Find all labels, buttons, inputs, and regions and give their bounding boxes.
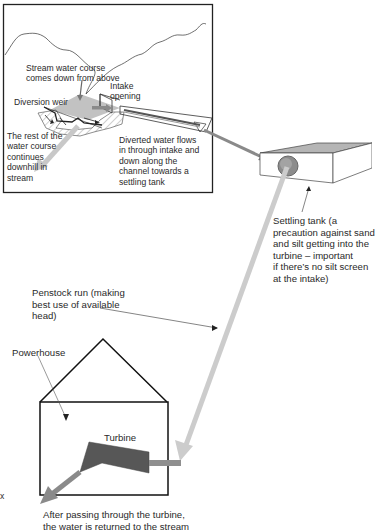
label-stream-water-course: Stream water course comes down from abov… bbox=[26, 63, 120, 84]
penstock-pipe bbox=[186, 167, 287, 445]
label-diversion-weir: Diversion weir bbox=[14, 97, 68, 107]
label-penstock-run: Penstock run (making best use of availab… bbox=[32, 287, 125, 322]
label-diverted-water: Diverted water flows in through intake a… bbox=[119, 135, 199, 187]
label-settling-tank: Settling tank (a precaution against sand… bbox=[273, 215, 375, 285]
turbine-inlet bbox=[149, 460, 181, 466]
label-intake-opening: Intake opening bbox=[110, 81, 141, 102]
outflow-arrow bbox=[52, 472, 80, 494]
settling-tank bbox=[260, 143, 372, 183]
label-edge-fragment: x bbox=[0, 491, 4, 501]
penstock-arrowhead bbox=[175, 440, 193, 461]
label-rest-of-water: The rest of the water course continues d… bbox=[7, 131, 62, 183]
turbine bbox=[80, 442, 149, 473]
label-turbine: Turbine bbox=[104, 432, 136, 444]
label-water-return: After passing through the turbine, the w… bbox=[43, 509, 189, 530]
label-powerhouse: Powerhouse bbox=[12, 347, 65, 359]
